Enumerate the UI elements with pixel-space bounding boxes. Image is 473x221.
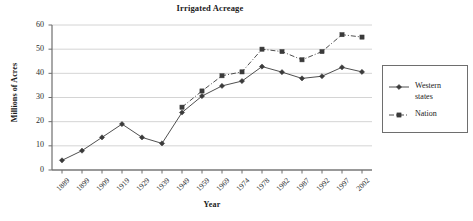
data-point-square — [300, 58, 304, 62]
y-tick-label: 10 — [22, 140, 44, 149]
series-line-1 — [182, 35, 362, 108]
data-point-square — [220, 74, 224, 78]
data-point-diamond — [159, 141, 164, 146]
y-tick-label: 60 — [22, 20, 44, 29]
data-point-diamond — [339, 65, 344, 70]
data-point-square — [320, 49, 324, 53]
data-point-diamond — [99, 135, 104, 140]
legend-label-0: Western — [415, 81, 441, 90]
y-tick-label: 50 — [22, 44, 44, 53]
y-tick-label: 20 — [22, 116, 44, 125]
chart-container: Irrigated Acreage Millions of Acres Year… — [0, 0, 473, 221]
data-point-square — [240, 70, 244, 74]
legend-label-1: Nation — [415, 109, 437, 118]
data-point-diamond — [299, 76, 304, 81]
data-point-diamond — [119, 121, 124, 126]
data-point-square — [340, 33, 344, 37]
series-line-0 — [62, 67, 362, 161]
data-point-diamond — [79, 148, 84, 153]
data-point-square — [360, 35, 364, 39]
data-point-diamond — [139, 135, 144, 140]
data-point-square — [180, 105, 184, 109]
data-point-diamond — [319, 74, 324, 79]
data-point-square — [260, 47, 264, 51]
data-point-square — [280, 49, 284, 53]
data-point-diamond — [279, 70, 284, 75]
y-tick-label: 30 — [22, 92, 44, 101]
data-point-diamond — [219, 83, 224, 88]
data-point-square — [200, 89, 204, 93]
legend-label-0-line2: states — [415, 92, 433, 101]
data-point-diamond — [59, 158, 64, 163]
y-tick-label: 0 — [22, 165, 44, 174]
y-tick-label: 40 — [22, 68, 44, 77]
